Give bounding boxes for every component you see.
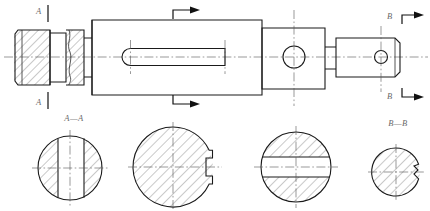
section-view-B-B: B—B xyxy=(368,118,426,200)
section-marker-B-top[interactable]: B xyxy=(387,11,424,24)
section-marker-B-top-arrowhead xyxy=(414,12,424,19)
section-view-A-A: A—A xyxy=(32,113,108,206)
block-neck-outline xyxy=(325,47,336,69)
section-marker-mid-bottom-arrowhead xyxy=(190,101,200,108)
main-body-outline xyxy=(92,20,262,95)
section-view-mid xyxy=(128,122,222,211)
section-marker-mid-bottom-corner xyxy=(173,95,190,104)
square-block-assembly xyxy=(262,10,336,106)
section-marker-B-bottom-corner xyxy=(402,88,414,97)
section-marker-mid-top[interactable] xyxy=(173,7,200,19)
left-end-assembly xyxy=(14,20,92,95)
section-marker-B-bottom[interactable]: B xyxy=(387,88,424,101)
main-body-assembly xyxy=(92,20,262,95)
section-marker-B-bottom-label: B xyxy=(387,91,393,101)
section-marker-A-top-label: A xyxy=(35,6,42,16)
section-marker-B-top-label: B xyxy=(387,11,393,21)
right-end-assembly xyxy=(336,26,400,92)
collar-hatch-fill xyxy=(66,30,84,85)
square-block-outline xyxy=(262,28,325,89)
section-view-keyway xyxy=(254,126,338,208)
section-marker-mid-top-corner xyxy=(173,10,190,19)
shaft-drawing-svg: A A B B A—A xyxy=(0,0,430,211)
section-marker-A-bottom[interactable]: A xyxy=(35,92,48,109)
groove-outline xyxy=(50,33,66,82)
section-marker-B-bottom-arrowhead xyxy=(414,94,424,101)
section-marker-mid-top-arrowhead xyxy=(190,7,200,14)
right-end-outline xyxy=(336,38,400,77)
section-marker-B-top-corner xyxy=(402,15,414,24)
section-marker-mid-bottom[interactable] xyxy=(173,95,200,107)
section-marker-A-top[interactable]: A xyxy=(35,5,48,22)
engineering-drawing-canvas: A A B B A—A xyxy=(0,0,430,211)
section-B-B-title: B—B xyxy=(388,118,407,128)
section-A-A-title: A—A xyxy=(63,113,84,123)
step-neck-outline xyxy=(84,38,92,77)
section-marker-A-bottom-label: A xyxy=(35,97,42,107)
left-end-hatch-fill xyxy=(14,30,50,85)
